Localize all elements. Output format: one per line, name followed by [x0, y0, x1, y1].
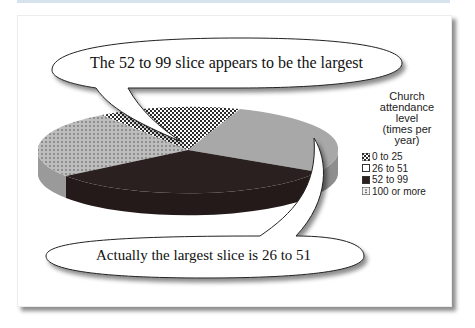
legend: Church attendance level (times per year)… — [362, 91, 452, 197]
legend-item-26-to-51: 26 to 51 — [362, 163, 452, 175]
dotted-swatch-icon — [362, 187, 370, 195]
checkered-swatch-icon — [362, 153, 370, 161]
legend-item-52-to-99: 52 to 99 — [362, 174, 452, 186]
bottom-callout-text: Actually the largest slice is 26 to 51 — [96, 247, 311, 264]
legend-item-100-or-more: 100 or more — [362, 186, 452, 198]
top-callout-text: The 52 to 99 slice appears to be the lar… — [90, 54, 363, 72]
legend-item-0-to-25: 0 to 25 — [362, 151, 452, 163]
pie-top — [38, 107, 338, 194]
legend-title: Church attendance level (times per year) — [362, 91, 452, 146]
dark-swatch-icon — [362, 176, 370, 184]
light-swatch-icon — [362, 164, 370, 172]
